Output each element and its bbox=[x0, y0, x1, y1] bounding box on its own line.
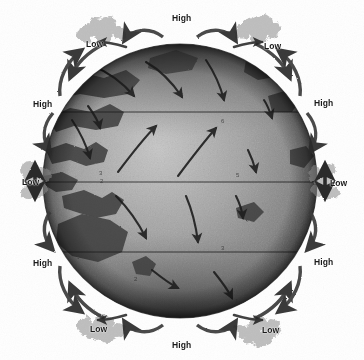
globe-limb-shadow bbox=[43, 44, 317, 318]
pressure-label-low-bottom-left: Low bbox=[90, 325, 107, 334]
pressure-label-low-top-right: Low bbox=[264, 42, 281, 51]
pressure-label-low-right-equator: Low bbox=[330, 179, 347, 188]
pressure-label-low-top-left: Low bbox=[86, 40, 103, 49]
interior-mark-mark-a: 4 bbox=[180, 92, 183, 98]
diagram-canvas bbox=[0, 0, 364, 360]
interior-mark-mark-b: 6 bbox=[221, 118, 224, 124]
interior-mark-mark-f: 3 bbox=[221, 245, 224, 251]
interior-mark-mark-c: 3 bbox=[99, 170, 102, 176]
interior-mark-mark-h: 1 bbox=[235, 298, 238, 304]
pressure-label-high-left-north: High bbox=[33, 100, 52, 109]
globe-group bbox=[43, 44, 318, 320]
pressure-label-high-right-north: High bbox=[314, 99, 333, 108]
pressure-label-low-left-equator: Low bbox=[22, 178, 39, 187]
interior-mark-mark-e: 2 bbox=[100, 178, 103, 184]
pressure-label-high-top-center: High bbox=[172, 14, 191, 23]
pressure-label-high-left-south: High bbox=[33, 259, 52, 268]
pressure-label-high-bottom-center: High bbox=[172, 341, 191, 350]
interior-mark-mark-g: 2 bbox=[134, 276, 137, 282]
pressure-label-low-bottom-right: Low bbox=[262, 326, 279, 335]
interior-mark-mark-d: 5 bbox=[236, 172, 239, 178]
pressure-label-high-right-south: High bbox=[314, 258, 333, 267]
circulation-diagram: HighLowLowHighHighLowLowHighHighLowLowHi… bbox=[0, 0, 364, 360]
